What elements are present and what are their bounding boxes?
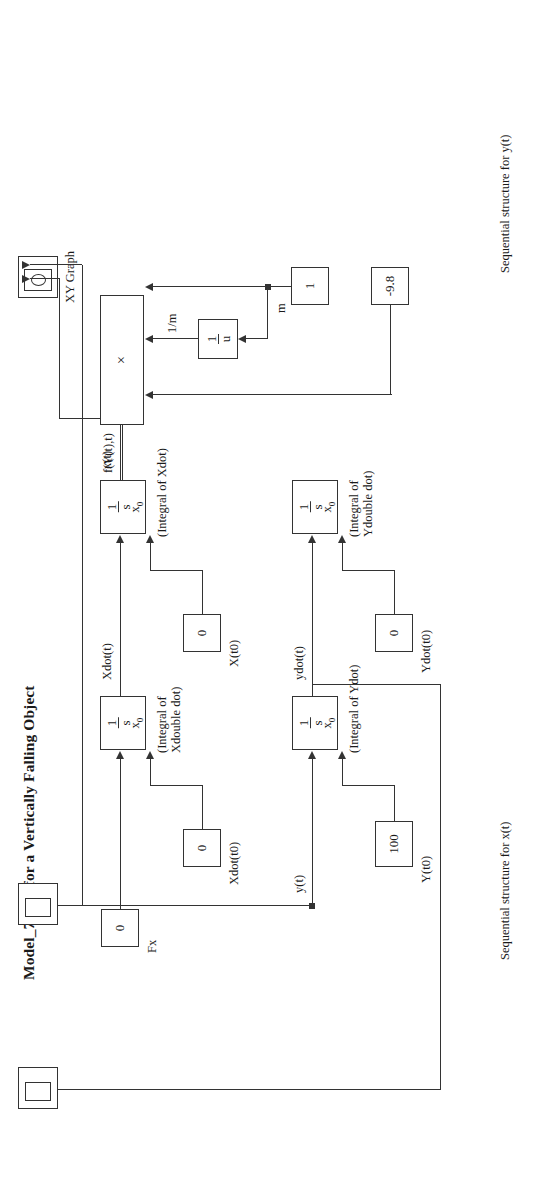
arrowhead-product-in2 bbox=[145, 336, 153, 344]
block-integrator-xdoubledot[interactable]: 1 s x0 bbox=[100, 696, 146, 750]
arrowhead-xd-in1 bbox=[116, 535, 124, 543]
wire-xic-h bbox=[202, 570, 203, 614]
wire-xic-h2 bbox=[150, 543, 151, 571]
fx-constant-value: 0 bbox=[112, 925, 128, 932]
arrowhead-xygraph-in2 bbox=[22, 262, 30, 270]
block-x-ic-constant[interactable]: 0 bbox=[183, 614, 221, 652]
block-product[interactable]: × bbox=[100, 295, 144, 425]
recip-denominator: u bbox=[218, 334, 232, 345]
wire-xt-h2 bbox=[59, 278, 60, 419]
wire-xygraph-in2 bbox=[30, 264, 82, 265]
wire-gravity-h bbox=[390, 305, 391, 395]
integ-ydd-ic-label: x0 bbox=[320, 502, 337, 513]
label-mass: m bbox=[274, 303, 288, 313]
gravity-value: -9.8 bbox=[382, 276, 398, 297]
integ-xdd-ic-label: x0 bbox=[128, 718, 145, 729]
integ-ydd-numerator: 1 bbox=[297, 502, 310, 513]
figure-title: Model_7_2_1 for a Vertically Falling Obj… bbox=[20, 685, 38, 980]
figure-stage: Model_7_2_1 for a Vertically Falling Obj… bbox=[0, 0, 545, 1185]
xdot-ic-value: 0 bbox=[194, 845, 210, 852]
block-reciprocal[interactable]: 1 u bbox=[198, 319, 238, 359]
caption-y-structure: Sequential structure for y(t) bbox=[498, 135, 513, 274]
label-fx: Fx bbox=[145, 940, 159, 953]
block-integrator-ydot[interactable]: 1 s x0 bbox=[292, 696, 338, 750]
integ-yd-ic-label: x0 bbox=[320, 718, 337, 729]
arrowhead-xdd-in1 bbox=[116, 751, 124, 759]
wire-product-out bbox=[122, 424, 123, 480]
label-f-y-t: f(Y(t),t) bbox=[101, 433, 115, 473]
integ-xd-numerator: 1 bbox=[105, 502, 118, 513]
wire-fx-to-xdd bbox=[120, 759, 121, 909]
label-xdot-t0: Xdot(t0) bbox=[227, 842, 241, 885]
arrowhead-recip-in bbox=[238, 336, 246, 344]
wire-xdot-t bbox=[120, 543, 121, 696]
wire-gravity-to-product bbox=[152, 394, 371, 395]
scope-icon bbox=[25, 1082, 51, 1101]
arrowhead-product-in3 bbox=[145, 284, 153, 292]
wire-mass-up bbox=[268, 286, 292, 287]
arrowhead-xd-ic bbox=[146, 535, 154, 543]
wire-xic-v bbox=[150, 570, 203, 571]
block-gravity-constant[interactable]: -9.8 bbox=[371, 267, 409, 305]
recip-numerator: 1 bbox=[205, 334, 218, 345]
arrowhead-xygraph-in1 bbox=[22, 276, 30, 284]
wire-xdotic-h2 bbox=[150, 758, 151, 786]
wire-xdotic-v bbox=[150, 785, 203, 786]
mass-value: 1 bbox=[302, 283, 318, 290]
label-xy-graph: XY Graph bbox=[63, 251, 77, 303]
label-one-over-m: 1/m bbox=[165, 314, 179, 333]
block-mass-constant[interactable]: 1 bbox=[291, 267, 329, 305]
integ-xdd-numerator: 1 bbox=[105, 718, 118, 729]
block-y-ic-constant[interactable]: 100 bbox=[375, 821, 413, 867]
note-integral-xdoubledot: (Integral of Xdouble dot) bbox=[155, 687, 183, 753]
wire-mass-to-recip bbox=[267, 287, 268, 339]
note-integral-xdot: (Integral of Xdot) bbox=[155, 448, 169, 537]
ydot-ic-value: 0 bbox=[386, 630, 402, 637]
integ-xd-ic-label: x0 bbox=[128, 502, 145, 513]
wire-xygraph-in1 bbox=[30, 278, 59, 279]
caption-x-structure: Sequential structure for x(t) bbox=[498, 822, 513, 961]
block-scope-y[interactable] bbox=[18, 883, 58, 925]
wire-recip-out bbox=[152, 338, 198, 339]
y-ic-value: 100 bbox=[386, 834, 402, 854]
product-symbol: × bbox=[114, 356, 130, 364]
integ-yd-numerator: 1 bbox=[297, 718, 310, 729]
arrowhead-product-in1 bbox=[145, 392, 153, 400]
label-x-t0: X(t0) bbox=[227, 640, 241, 667]
block-scope-ydot[interactable] bbox=[18, 1067, 58, 1109]
wire-recip-in-v bbox=[246, 338, 268, 339]
block-xdot-ic-constant[interactable]: 0 bbox=[183, 829, 221, 867]
arrowhead-xdd-ic bbox=[146, 751, 154, 759]
x-ic-value: 0 bbox=[194, 630, 210, 637]
label-xdot-t: Xdot(t) bbox=[100, 643, 114, 680]
scope-icon bbox=[25, 898, 51, 917]
wire-xdotic-h bbox=[202, 785, 203, 829]
block-fx-constant[interactable]: 0 bbox=[101, 909, 139, 947]
wire-gravity-v2 bbox=[370, 394, 392, 395]
xy-graph-oval-icon bbox=[31, 274, 46, 286]
block-ydot-ic-constant[interactable]: 0 bbox=[375, 614, 413, 652]
block-integrator-xdot[interactable]: 1 s x0 bbox=[100, 480, 146, 534]
wire-mass-to-product bbox=[152, 286, 266, 287]
block-integrator-ydoubledot[interactable]: 1 s x0 bbox=[292, 480, 338, 534]
